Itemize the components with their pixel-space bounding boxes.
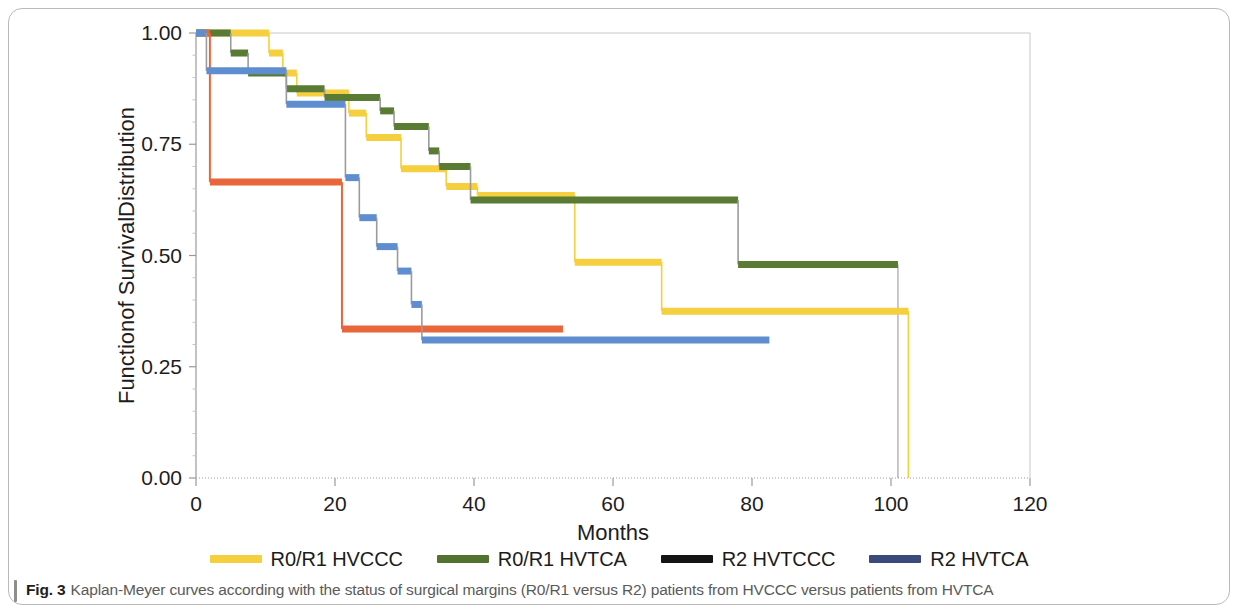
legend-item[interactable]: R2 HVTCCC bbox=[661, 548, 836, 571]
y-tick-label: 0.00 bbox=[141, 466, 182, 489]
legend-item[interactable]: R0/R1 HVTCA bbox=[437, 548, 627, 571]
legend-swatch-icon bbox=[661, 555, 713, 563]
figure-container: 0.000.250.500.751.00020406080100120Month… bbox=[0, 0, 1238, 613]
caption-body: Kaplan-Meyer curves according with the s… bbox=[71, 581, 994, 598]
caption-figure-number: Fig. 3 bbox=[26, 581, 66, 598]
chart-legend: R0/R1 HVCCC R0/R1 HVTCA R2 HVTCCC R2 HVT… bbox=[0, 543, 1238, 575]
y-tick-label: 0.50 bbox=[141, 244, 182, 267]
x-tick-label: 20 bbox=[323, 492, 346, 515]
x-tick-label: 100 bbox=[873, 492, 908, 515]
label-layer: 0.000.250.500.751.00020406080100120Month… bbox=[114, 21, 1048, 540]
legend-item-label: R0/R1 HVCCC bbox=[271, 548, 403, 571]
caption-text: Fig. 3Kaplan-Meyer curves according with… bbox=[26, 580, 993, 600]
legend-swatch-icon bbox=[210, 555, 262, 563]
caption-rule bbox=[14, 580, 17, 602]
legend-item[interactable]: R2 HVTCA bbox=[869, 548, 1028, 571]
figure-caption: Fig. 3Kaplan-Meyer curves according with… bbox=[14, 580, 1229, 608]
y-axis-title: Functionof SurvivalDistribution bbox=[114, 107, 139, 404]
kaplan-meier-chart: 0.000.250.500.751.00020406080100120Month… bbox=[0, 0, 1238, 540]
legend-item[interactable]: R0/R1 HVCCC bbox=[210, 548, 403, 571]
curve-layer bbox=[196, 33, 908, 478]
legend-swatch-icon bbox=[437, 555, 489, 563]
x-tick-label: 0 bbox=[190, 492, 202, 515]
y-tick-label: 1.00 bbox=[141, 21, 182, 44]
series-r0r1_hvccc bbox=[196, 33, 908, 478]
y-tick-label: 0.75 bbox=[141, 132, 182, 155]
plot-area: 0.000.250.500.751.00020406080100120Month… bbox=[0, 0, 1238, 540]
x-tick-label: 120 bbox=[1012, 492, 1047, 515]
y-tick-label: 0.25 bbox=[141, 355, 182, 378]
series-r2_hvtca bbox=[196, 33, 769, 340]
x-tick-label: 80 bbox=[740, 492, 763, 515]
series-r0r1_hvtca bbox=[196, 33, 898, 264]
series-r2_hvtccc bbox=[196, 33, 563, 329]
legend-swatch-icon bbox=[869, 555, 921, 563]
x-axis-title: Months bbox=[577, 520, 649, 540]
x-tick-label: 40 bbox=[462, 492, 485, 515]
x-tick-label: 60 bbox=[601, 492, 624, 515]
legend-item-label: R2 HVTCCC bbox=[722, 548, 836, 571]
legend-item-label: R2 HVTCA bbox=[930, 548, 1028, 571]
legend-item-label: R0/R1 HVTCA bbox=[498, 548, 627, 571]
